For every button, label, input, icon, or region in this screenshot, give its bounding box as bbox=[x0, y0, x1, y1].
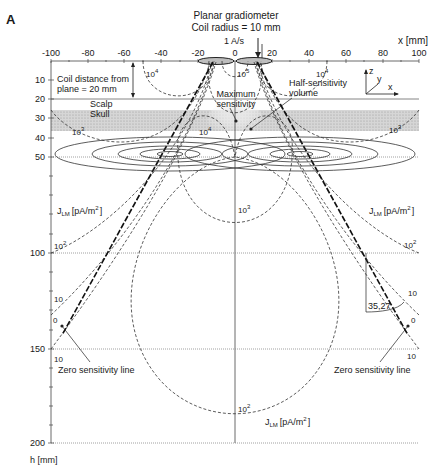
svg-text:102: 102 bbox=[238, 403, 251, 414]
x-axis-label: x [mm] bbox=[398, 35, 428, 46]
svg-text:40: 40 bbox=[35, 133, 45, 143]
zero-line-label-left: Zero sensitivity line bbox=[58, 365, 135, 375]
svg-text:200: 200 bbox=[30, 438, 45, 448]
svg-text:100: 100 bbox=[411, 48, 426, 58]
half-sensitivity-label: Half-sensitivity bbox=[289, 78, 348, 88]
svg-text:20: 20 bbox=[35, 94, 45, 104]
jlm-label-left: JLM[pA/m2] bbox=[57, 205, 102, 217]
svg-text:102: 102 bbox=[404, 239, 417, 250]
svg-text:-20: -20 bbox=[191, 48, 204, 58]
svg-text:0: 0 bbox=[53, 316, 58, 325]
coil-distance-label: Coil distance from bbox=[57, 74, 129, 84]
svg-text:-40: -40 bbox=[154, 48, 167, 58]
svg-text:-80: -80 bbox=[81, 48, 94, 58]
scalp-label: Scalp bbox=[90, 99, 113, 109]
svg-text:60: 60 bbox=[341, 48, 351, 58]
zero-line-label-right: Zero sensitivity line bbox=[334, 365, 411, 375]
svg-text:10: 10 bbox=[408, 289, 417, 298]
svg-text:103: 103 bbox=[238, 204, 251, 215]
x-tick-labels: -100 -80 -60 -40 -20 0 20 40 60 80 100 bbox=[42, 48, 427, 58]
svg-text:z: z bbox=[369, 66, 374, 76]
svg-text:-100: -100 bbox=[42, 48, 60, 58]
svg-text:y: y bbox=[377, 74, 382, 84]
svg-text:x: x bbox=[388, 82, 393, 92]
svg-text:100: 100 bbox=[30, 248, 45, 258]
panel-label: A bbox=[6, 12, 16, 27]
svg-text:10: 10 bbox=[407, 352, 416, 361]
svg-text:50: 50 bbox=[35, 152, 45, 162]
svg-text:150: 150 bbox=[30, 344, 45, 354]
svg-text:30: 30 bbox=[35, 113, 45, 123]
y-axis-label: h [mm] bbox=[30, 455, 58, 465]
svg-text:40: 40 bbox=[304, 48, 314, 58]
svg-text:10: 10 bbox=[54, 295, 63, 304]
angle-label: 35,27 bbox=[368, 301, 391, 311]
svg-text:10: 10 bbox=[35, 75, 45, 85]
svg-text:104: 104 bbox=[199, 126, 212, 137]
svg-text:104: 104 bbox=[146, 68, 159, 79]
svg-text:20: 20 bbox=[267, 48, 277, 58]
svg-text:sensitivity: sensitivity bbox=[216, 99, 256, 109]
svg-text:10: 10 bbox=[54, 355, 63, 364]
svg-text:-60: -60 bbox=[117, 48, 130, 58]
svg-text:0: 0 bbox=[232, 48, 237, 58]
skull-label: Skull bbox=[90, 109, 110, 119]
svg-text:105: 105 bbox=[237, 68, 250, 79]
max-sensitivity-label: Maximum bbox=[216, 89, 255, 99]
jlm-label-right: JLM[pA/m2] bbox=[369, 205, 414, 217]
current-label: 1 A/s bbox=[224, 36, 245, 46]
svg-text:102: 102 bbox=[54, 240, 67, 251]
svg-text:103: 103 bbox=[72, 126, 85, 137]
svg-text:103: 103 bbox=[389, 124, 402, 135]
title-line2: Coil radius = 10 mm bbox=[191, 22, 280, 33]
coil-left bbox=[198, 58, 234, 65]
svg-text:0: 0 bbox=[411, 316, 416, 325]
svg-text:volume: volume bbox=[289, 88, 318, 98]
sensitivity-diagram: A Planar gradiometer Coil radius = 10 mm… bbox=[0, 0, 434, 469]
jlm-label-bottom: JLM[pA/m2] bbox=[265, 416, 310, 428]
coil-right bbox=[236, 58, 272, 65]
title-line1: Planar gradiometer bbox=[193, 10, 279, 21]
svg-text:80: 80 bbox=[378, 48, 388, 58]
y-tick-labels: 10 20 30 40 50 100 150 200 bbox=[30, 75, 45, 448]
svg-text:plane = 20 mm: plane = 20 mm bbox=[57, 84, 117, 94]
